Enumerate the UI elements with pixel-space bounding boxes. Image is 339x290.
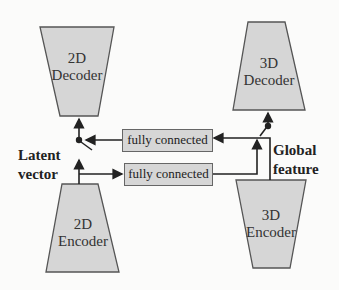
decoder-2d-label: 2D Decoder: [40, 50, 114, 84]
decoder-3d-line1: 3D: [233, 55, 305, 72]
global-feature-label: Global feature: [273, 141, 319, 179]
decoder-3d-label: 3D Decoder: [233, 55, 305, 89]
decoder-2d-line1: 2D: [40, 50, 114, 67]
encoder-3d-label: 3D Encoder: [236, 207, 306, 241]
global-line2: feature: [273, 160, 319, 179]
global-line1: Global: [273, 141, 319, 160]
fc-layer-bottom: fully connected: [124, 163, 213, 186]
switch-lever-3d: [260, 128, 266, 136]
encoder-2d-label: 2D Encoder: [46, 216, 120, 250]
encoder-3d-line2: Encoder: [236, 224, 306, 241]
switch-lever-2d: [81, 142, 92, 150]
encoder-2d-line1: 2D: [46, 216, 120, 233]
fc-layer-top: fully connected: [122, 129, 213, 152]
latent-line2: vector: [18, 165, 61, 184]
latent-line1: Latent: [18, 146, 61, 165]
latent-vector-label: Latent vector: [18, 146, 61, 184]
decoder-3d-line2: Decoder: [233, 72, 305, 89]
arrow-fc2-to-switch-3d: [213, 140, 257, 174]
decoder-2d-line2: Decoder: [40, 67, 114, 84]
encoder-3d-line1: 3D: [236, 207, 306, 224]
encoder-2d-line2: Encoder: [46, 233, 120, 250]
